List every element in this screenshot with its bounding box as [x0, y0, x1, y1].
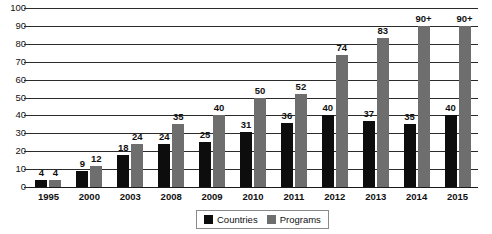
- x-axis-labels: 1995200020032008200920102011201220132014…: [28, 190, 478, 203]
- legend-item-programs[interactable]: Programs: [267, 215, 321, 225]
- y-tick-label-20: 20: [2, 146, 26, 156]
- y-tick-label-80: 80: [2, 39, 26, 49]
- bar-value-label: 90+: [416, 14, 432, 24]
- bar-countries-2011: 36: [281, 123, 293, 187]
- bar-group-2013: 3783: [355, 8, 396, 187]
- bar-value-label: 12: [91, 154, 102, 164]
- bar-value-label: 24: [159, 132, 170, 142]
- bar-value-label: 18: [118, 143, 129, 153]
- bar-value-label: 24: [132, 132, 143, 142]
- bar-countries-1995: 4: [35, 180, 47, 187]
- y-tick-label-0: 0: [2, 182, 26, 192]
- x-tick-label-2011: 2011: [273, 190, 314, 203]
- bar-group-2012: 4074: [314, 8, 355, 187]
- bar-countries-2013: 37: [363, 121, 375, 187]
- bar-programs-2000: 12: [90, 166, 102, 187]
- y-tick-label-100: 100: [2, 3, 26, 13]
- legend-swatch-icon: [267, 215, 276, 224]
- bar-group-2011: 3652: [273, 8, 314, 187]
- y-tick-label-50: 50: [2, 93, 26, 103]
- bar-value-label: 4: [53, 168, 58, 178]
- bar-group-1995: 44: [28, 8, 69, 187]
- bar-programs-2003: 24: [131, 144, 143, 187]
- bar-group-2008: 2435: [151, 8, 192, 187]
- bar-programs-2011: 52: [295, 94, 307, 187]
- bar-value-label: 52: [296, 82, 307, 92]
- legend-label: Countries: [217, 215, 258, 225]
- bar-value-label: 31: [241, 120, 252, 130]
- y-tick-label-90: 90: [2, 21, 26, 31]
- y-tick-label-10: 10: [2, 164, 26, 174]
- x-tick-label-2013: 2013: [355, 190, 396, 203]
- bar-value-label: 40: [323, 103, 334, 113]
- bar-value-label: 9: [80, 159, 85, 169]
- bar-programs-2012: 74: [336, 55, 348, 187]
- bar-group-2003: 1824: [110, 8, 151, 187]
- bar-group-2010: 3150: [233, 8, 274, 187]
- x-tick-label-2014: 2014: [396, 190, 437, 203]
- bar-value-label: 40: [214, 103, 225, 113]
- bar-countries-2010: 31: [240, 132, 252, 187]
- bar-value-label: 40: [445, 103, 456, 113]
- x-tick-label-2010: 2010: [233, 190, 274, 203]
- bar-value-label: 37: [363, 109, 374, 119]
- bar-programs-2008: 35: [172, 124, 184, 187]
- x-tick-label-2009: 2009: [192, 190, 233, 203]
- y-tick-label-70: 70: [2, 57, 26, 67]
- x-tick-label-2008: 2008: [151, 190, 192, 203]
- y-axis: 1009080706050403020100: [0, 8, 26, 187]
- y-tick-label-40: 40: [2, 110, 26, 120]
- bar-group-2009: 2540: [192, 8, 233, 187]
- bar-countries-2012: 40: [322, 115, 334, 187]
- bar-countries-2000: 9: [76, 171, 88, 187]
- chart-legend: CountriesPrograms: [196, 210, 329, 229]
- bar-value-label: 90+: [456, 14, 472, 24]
- bar-countries-2003: 18: [117, 155, 129, 187]
- bar-group-2000: 912: [69, 8, 110, 187]
- bar-group-2014: 3590+: [396, 8, 437, 187]
- legend-item-countries[interactable]: Countries: [204, 215, 258, 225]
- bar-value-label: 4: [39, 168, 44, 178]
- bar-value-label: 35: [404, 112, 415, 122]
- bar-programs-2015: 90+: [459, 26, 471, 187]
- bar-countries-2015: 40: [445, 115, 457, 187]
- bar-programs-1995: 4: [49, 180, 61, 187]
- bar-programs-2014: 90+: [418, 26, 430, 187]
- bar-value-label: 74: [337, 43, 348, 53]
- bar-countries-2008: 24: [158, 144, 170, 187]
- bar-value-label: 35: [173, 112, 184, 122]
- x-tick-label-2012: 2012: [314, 190, 355, 203]
- bar-countries-2014: 35: [404, 124, 416, 187]
- bar-chart: 1009080706050403020100 44912182424352540…: [0, 0, 492, 234]
- bar-programs-2010: 50: [254, 98, 266, 188]
- gridline-0: [28, 187, 478, 188]
- bar-programs-2013: 83: [377, 38, 389, 187]
- bar-countries-2009: 25: [199, 142, 211, 187]
- bar-group-2015: 4090+: [437, 8, 478, 187]
- bar-programs-2009: 40: [213, 115, 225, 187]
- x-tick-label-1995: 1995: [28, 190, 69, 203]
- bar-value-label: 83: [377, 26, 388, 36]
- x-tick-label-2000: 2000: [69, 190, 110, 203]
- x-tick-label-2003: 2003: [110, 190, 151, 203]
- x-tick-label-2015: 2015: [437, 190, 478, 203]
- bar-value-label: 25: [200, 130, 211, 140]
- bar-value-label: 50: [255, 86, 266, 96]
- bar-value-label: 36: [282, 111, 293, 121]
- legend-label: Programs: [280, 215, 321, 225]
- y-tick-label-30: 30: [2, 128, 26, 138]
- y-tick-label-60: 60: [2, 75, 26, 85]
- bar-groups: 4491218242435254031503652407437833590+40…: [28, 8, 478, 187]
- legend-swatch-icon: [204, 215, 213, 224]
